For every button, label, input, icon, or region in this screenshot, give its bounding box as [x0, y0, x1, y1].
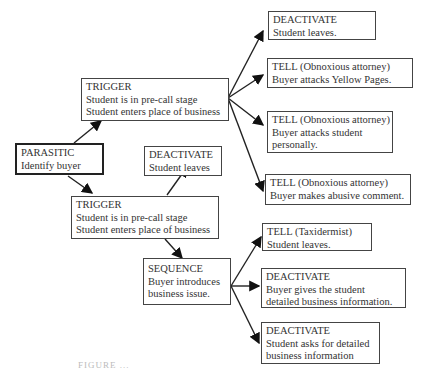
node-line: Student leaves. — [273, 27, 371, 40]
node-line: Buyer attacks student — [272, 127, 388, 140]
node-line: detailed business information. — [266, 296, 401, 309]
node-line: Student enters place of business — [86, 106, 224, 119]
node-tell-4: TELL (Taxidermist) Student leaves. — [262, 223, 372, 251]
node-trigger-2: TRIGGER Student is in pre-call stage Stu… — [71, 196, 219, 239]
edge-trigger1-deactivate1 — [228, 31, 263, 98]
node-tell-3: TELL (Obnoxious attorney) Buyer makes ab… — [265, 174, 411, 205]
node-deactivate-2: DEACTIVATE Student leaves — [144, 146, 222, 176]
node-parasitic: PARASITIC Identify buyer — [15, 143, 104, 175]
node-type: DEACTIVATE — [273, 14, 371, 27]
node-deactivate-3: DEACTIVATE Buyer gives the student detai… — [261, 268, 406, 308]
node-line: Buyer gives the student — [266, 284, 401, 297]
node-line: business information — [266, 350, 375, 363]
node-type: TRIGGER — [86, 81, 224, 94]
node-line: personally. — [272, 139, 388, 152]
node-line: business issue. — [148, 288, 226, 301]
node-type: TRIGGER — [76, 199, 214, 212]
node-tell-1: TELL (Obnoxious attorney) Buyer attacks … — [267, 58, 413, 88]
node-type: DEACTIVATE — [149, 149, 217, 162]
node-line: Student asks for detailed — [266, 338, 375, 351]
node-trigger-1: TRIGGER Student is in pre-call stage Stu… — [81, 78, 229, 121]
node-deactivate-4: DEACTIVATE Student asks for detailed bus… — [261, 322, 380, 364]
node-line: Student is in pre-call stage — [76, 212, 214, 225]
node-line: Student enters place of business — [76, 224, 214, 237]
node-sequence: SEQUENCE Buyer introduces business issue… — [143, 258, 231, 305]
node-line: Student leaves. — [267, 239, 367, 252]
node-line: Student is in pre-call stage — [86, 94, 224, 107]
node-type: TELL (Obnoxious attorney) — [270, 177, 406, 190]
node-type: TELL (Taxidermist) — [267, 226, 367, 239]
node-line: Buyer makes abusive comment. — [270, 190, 406, 203]
node-type: TELL (Obnoxious attorney) — [272, 61, 408, 74]
node-tell-2: TELL (Obnoxious attorney) Buyer attacks … — [267, 111, 393, 153]
node-type: DEACTIVATE — [266, 325, 375, 338]
edge-sequence-tell4 — [231, 237, 261, 286]
node-type: SEQUENCE — [148, 263, 226, 276]
edge-sequence-deactivate4 — [231, 286, 259, 343]
node-type: TELL (Obnoxious attorney) — [272, 114, 388, 127]
edge-trigger2-sequence — [165, 239, 182, 258]
node-line: Identify buyer — [21, 160, 98, 173]
edge-parasitic-trigger1 — [74, 121, 101, 143]
node-line: Student leaves — [149, 162, 217, 175]
node-line: Buyer attacks Yellow Pages. — [272, 74, 408, 87]
edge-parasitic-trigger2 — [68, 176, 92, 193]
node-type: PARASITIC — [21, 147, 98, 160]
node-line: Buyer introduces — [148, 276, 226, 289]
node-type: DEACTIVATE — [266, 271, 401, 284]
figure-caption: FIGURE ... — [78, 360, 130, 370]
node-deactivate-1: DEACTIVATE Student leaves. — [268, 11, 376, 40]
